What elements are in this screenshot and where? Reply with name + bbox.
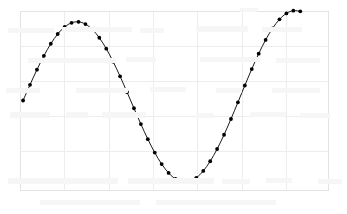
data-point-marker xyxy=(125,90,129,94)
data-point-marker xyxy=(278,17,282,21)
data-point-marker xyxy=(70,21,74,25)
data-point-marker xyxy=(56,32,60,36)
data-point-marker xyxy=(104,47,108,51)
data-point-marker xyxy=(285,11,289,15)
data-point-marker xyxy=(35,68,39,72)
data-point-marker xyxy=(160,162,164,166)
data-point-marker xyxy=(132,106,136,110)
data-point-marker xyxy=(146,137,150,141)
sine-plot xyxy=(0,0,347,214)
chart-figure xyxy=(0,0,347,214)
data-point-marker xyxy=(236,100,240,104)
data-point-marker xyxy=(28,83,32,87)
data-point-marker xyxy=(208,159,212,163)
data-point-marker xyxy=(264,38,268,42)
data-point-marker xyxy=(298,9,302,13)
data-point-marker xyxy=(194,176,198,180)
data-point-marker xyxy=(215,147,219,151)
plot-background xyxy=(0,0,347,214)
data-point-marker xyxy=(271,26,275,30)
data-point-marker xyxy=(222,133,226,137)
data-point-marker xyxy=(153,151,157,155)
data-point-marker xyxy=(229,117,233,121)
data-point-marker xyxy=(139,122,143,126)
data-point-marker xyxy=(188,180,192,184)
data-point-marker xyxy=(250,67,254,71)
data-point-marker xyxy=(291,9,295,13)
data-point-marker xyxy=(167,171,171,175)
data-point-marker xyxy=(111,60,115,64)
data-point-marker xyxy=(42,54,46,58)
data-point-marker xyxy=(174,177,178,181)
data-point-marker xyxy=(63,25,67,29)
data-point-marker xyxy=(257,52,261,56)
data-point-marker xyxy=(49,42,53,46)
data-point-marker xyxy=(90,28,94,32)
data-point-marker xyxy=(77,20,81,24)
data-point-marker xyxy=(243,84,247,88)
data-point-marker xyxy=(97,36,101,40)
data-point-marker xyxy=(21,99,25,103)
data-point-marker xyxy=(118,74,122,78)
data-point-marker xyxy=(181,180,185,184)
data-point-marker xyxy=(84,22,88,26)
data-point-marker xyxy=(201,169,205,173)
